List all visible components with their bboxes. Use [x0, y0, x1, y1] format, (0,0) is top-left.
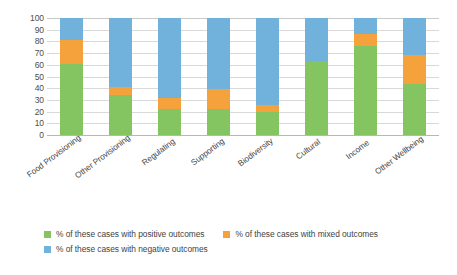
bar-group[interactable] — [109, 18, 131, 135]
bar-stack — [60, 18, 82, 135]
bar-segment-positive[interactable] — [109, 95, 131, 135]
y-axis: 0102030405060708090100 — [17, 18, 44, 135]
x-axis-tick-label: Regulating — [141, 137, 177, 167]
bar-segment-positive[interactable] — [256, 112, 278, 135]
bar-segment-negative[interactable] — [60, 18, 82, 40]
legend-label: % of these cases with negative outcomes — [56, 245, 208, 253]
bar-segment-positive[interactable] — [305, 61, 327, 135]
legend-swatch-icon — [44, 246, 51, 253]
gridline — [47, 100, 439, 101]
legend-item[interactable]: % of these cases with negative outcomes — [44, 245, 208, 253]
y-axis-tick-label: 80 — [35, 37, 44, 46]
x-axis-tick-label: Other Wellbeing — [374, 135, 425, 176]
legend-label: % of these cases with positive outcomes — [56, 230, 204, 238]
chart-legend: % of these cases with positive outcomes%… — [44, 230, 444, 261]
bar-group[interactable] — [207, 18, 229, 135]
bar-stack — [305, 18, 327, 135]
bar-stack — [403, 18, 425, 135]
bar-segment-positive[interactable] — [354, 46, 376, 135]
gridline — [47, 65, 439, 66]
bar-segment-mixed[interactable] — [256, 105, 278, 112]
y-axis-tick-label: 70 — [35, 49, 44, 58]
plot-area — [47, 18, 439, 135]
bar-segment-positive[interactable] — [207, 109, 229, 135]
x-axis-tick-label: Income — [345, 139, 371, 162]
y-axis-tick-label: 90 — [35, 25, 44, 34]
bar-segment-negative[interactable] — [256, 18, 278, 105]
gridline — [47, 112, 439, 113]
legend-label: % of these cases with mixed outcomes — [235, 230, 378, 238]
gridline — [47, 18, 439, 19]
x-axis-tick-label: Cultural — [295, 139, 322, 162]
gridline — [47, 123, 439, 124]
bar-segment-mixed[interactable] — [109, 87, 131, 95]
bar-segment-negative[interactable] — [158, 18, 180, 98]
gridline — [47, 88, 439, 89]
y-axis-tick-label: 50 — [35, 72, 44, 81]
bar-stack — [109, 18, 131, 135]
bar-group[interactable] — [403, 18, 425, 135]
y-axis-tick-label: 30 — [35, 96, 44, 105]
bar-segment-mixed[interactable] — [403, 55, 425, 83]
bar-stack — [207, 18, 229, 135]
bar-segment-positive[interactable] — [403, 84, 425, 135]
bar-segment-negative[interactable] — [403, 18, 425, 55]
bar-stack — [158, 18, 180, 135]
bar-segment-mixed[interactable] — [60, 40, 82, 63]
bar-group[interactable] — [305, 18, 327, 135]
x-axis: Food ProvisioningOther ProvisioningRegul… — [47, 137, 439, 199]
y-axis-tick-label: 60 — [35, 61, 44, 70]
bar-segment-negative[interactable] — [109, 18, 131, 87]
stacked-bar-chart: 0102030405060708090100 Food Provisioning… — [0, 0, 457, 275]
legend-swatch-icon — [44, 231, 51, 238]
bar-stack — [354, 18, 376, 135]
y-axis-tick-label: 40 — [35, 84, 44, 93]
x-axis-tick-label: Other Provisioning — [74, 134, 132, 181]
y-axis-tick-label: 20 — [35, 107, 44, 116]
x-axis-tick-label: Biodiversity — [237, 137, 275, 168]
legend-item[interactable]: % of these cases with mixed outcomes — [223, 230, 378, 238]
gridline — [47, 41, 439, 42]
y-axis-tick-label: 10 — [35, 119, 44, 128]
gridline — [47, 135, 439, 136]
bar-stack — [256, 18, 278, 135]
bar-segment-mixed[interactable] — [207, 89, 229, 109]
legend-swatch-icon — [223, 231, 230, 238]
bar-segment-negative[interactable] — [305, 18, 327, 61]
bar-segment-mixed[interactable] — [354, 34, 376, 46]
x-axis-tick-label: Supporting — [190, 137, 226, 167]
gridline — [47, 30, 439, 31]
bar-group[interactable] — [60, 18, 82, 135]
bar-segment-mixed[interactable] — [158, 98, 180, 110]
bar-segment-negative[interactable] — [207, 18, 229, 89]
gridline — [47, 77, 439, 78]
bar-group[interactable] — [256, 18, 278, 135]
y-axis-tick-label: 0 — [39, 131, 44, 140]
bar-segment-positive[interactable] — [60, 64, 82, 135]
gridline — [47, 53, 439, 54]
legend-row: % of these cases with negative outcomes — [44, 245, 444, 253]
legend-row: % of these cases with positive outcomes%… — [44, 230, 444, 238]
bar-group[interactable] — [158, 18, 180, 135]
bar-segment-positive[interactable] — [158, 109, 180, 135]
legend-item[interactable]: % of these cases with positive outcomes — [44, 230, 204, 238]
bar-group[interactable] — [354, 18, 376, 135]
bar-segment-negative[interactable] — [354, 18, 376, 34]
y-axis-tick-label: 100 — [30, 14, 44, 23]
